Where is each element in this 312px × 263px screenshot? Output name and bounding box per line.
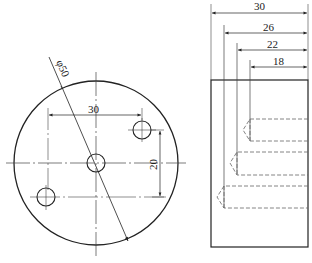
dim-label-side-22: 22 xyxy=(267,38,278,50)
side-outline xyxy=(211,80,308,247)
dim-label-30: 30 xyxy=(88,103,100,115)
dim-label-20: 20 xyxy=(147,159,159,171)
dim-label-side-30: 30 xyxy=(254,0,266,12)
hidden-holes xyxy=(217,119,308,208)
dim-label-side-26: 26 xyxy=(263,21,275,33)
dim-label-side-18: 18 xyxy=(273,55,285,67)
technical-drawing: 30 20 φ50 30 26 22 18 xyxy=(0,0,312,263)
diameter-leader xyxy=(49,57,128,241)
side-view: 30 26 22 18 xyxy=(211,0,308,247)
front-view: 30 20 φ50 xyxy=(6,57,186,256)
